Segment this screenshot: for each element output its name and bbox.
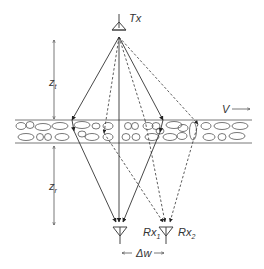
dashed-rays-rx2 <box>104 37 198 222</box>
rx1-antenna-icon <box>113 227 127 244</box>
rx2-antenna-icon <box>159 227 173 244</box>
tx-label: Tx <box>129 12 142 24</box>
zt-label: zt <box>48 76 58 90</box>
tx-antenna-icon <box>112 14 126 30</box>
delta-w-label: Δw <box>135 247 152 259</box>
velocity-label: V <box>222 103 231 115</box>
rx1-label: Rx1 <box>143 226 160 240</box>
rx2-label: Rx2 <box>178 226 195 240</box>
diagram-canvas: Tx zt zr V <box>0 0 264 269</box>
zr-label: zr <box>48 180 58 194</box>
scattering-layer <box>15 120 252 143</box>
